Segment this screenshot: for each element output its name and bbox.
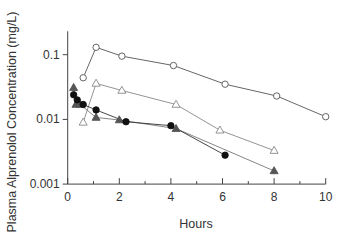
data-point-filled-circle: [168, 122, 174, 128]
y-tick-label: 0.001: [30, 177, 60, 191]
data-point-filled-triangle: [92, 113, 100, 120]
x-tick-label: 8: [271, 190, 278, 204]
data-point-filled-circle: [123, 119, 129, 125]
data-point-open-triangle: [216, 126, 224, 133]
series-markers: [70, 44, 329, 174]
series-line-open-triangle: [83, 83, 274, 150]
data-point-filled-triangle: [70, 83, 78, 90]
data-point-filled-circle: [74, 97, 80, 103]
x-tick-label: 6: [219, 190, 226, 204]
data-point-filled-triangle: [270, 167, 278, 174]
series-lines: [74, 47, 326, 171]
data-point-filled-circle: [93, 107, 99, 113]
data-point-open-circle: [80, 75, 86, 81]
x-tick-label: 2: [116, 190, 123, 204]
y-tick-label: 0.01: [36, 112, 60, 126]
data-point-filled-circle: [80, 101, 86, 107]
data-point-open-triangle: [79, 118, 87, 125]
pharmacokinetic-chart: 0.0010.010.10246810 Hours Plasma Alpreno…: [0, 0, 337, 245]
x-tick-label: 0: [64, 190, 71, 204]
data-point-open-circle: [119, 53, 125, 59]
data-point-filled-circle: [222, 152, 228, 158]
data-point-open-triangle: [92, 79, 100, 86]
y-axis-title: Plasma Alprenolol Concentration (mg/L): [5, 12, 19, 233]
axes: 0.0010.010.10246810: [30, 31, 333, 204]
data-point-open-circle: [170, 62, 176, 68]
x-axis-title: Hours: [179, 217, 212, 231]
x-tick-label: 10: [319, 190, 333, 204]
x-tick-label: 4: [168, 190, 175, 204]
data-point-open-circle: [222, 81, 228, 87]
y-tick-label: 0.1: [43, 48, 60, 62]
data-point-open-circle: [93, 44, 99, 50]
data-point-open-circle: [323, 114, 329, 120]
data-point-open-circle: [273, 93, 279, 99]
